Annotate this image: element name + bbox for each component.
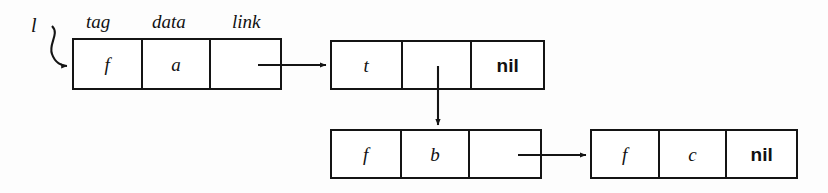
node-cell-data: b [402,131,471,177]
list-node: f b [330,129,542,179]
node-cell-value: a [171,55,181,74]
node-cell-value: t [364,56,369,75]
node-cell-value: f [622,145,627,164]
node-cell-value: c [688,145,697,164]
node-cell-tag: f [74,40,143,88]
node-cell-link [470,131,540,177]
node-cell-tag: t [332,42,403,88]
node-cell-value: b [430,145,440,164]
node-cell-tag: f [332,131,402,177]
node-cell-value: f [105,55,110,74]
list-node: f c nil [590,129,798,179]
field-label-data: data [152,11,186,33]
list-node: t nil [330,40,545,90]
node-cell-value: nil [751,145,773,164]
node-cell-data: c [660,131,728,177]
pointer-arrow-l-to-node1 [51,26,67,66]
node-cell-link [211,40,280,88]
node-cell-data: a [143,40,212,88]
node-cell-link: nil [472,42,543,88]
field-label-tag: tag [86,11,110,33]
node-cell-data [403,42,473,88]
node-cell-value: nil [497,56,519,75]
list-node: f a [72,38,282,90]
node-cell-tag: f [592,131,660,177]
node-cell-link: nil [727,131,796,177]
field-label-link: link [232,11,261,33]
pointer-variable-label: l [31,14,37,37]
node-cell-value: f [363,145,368,164]
linked-list-diagram: tag data link l f a t nil f b [0,0,828,193]
